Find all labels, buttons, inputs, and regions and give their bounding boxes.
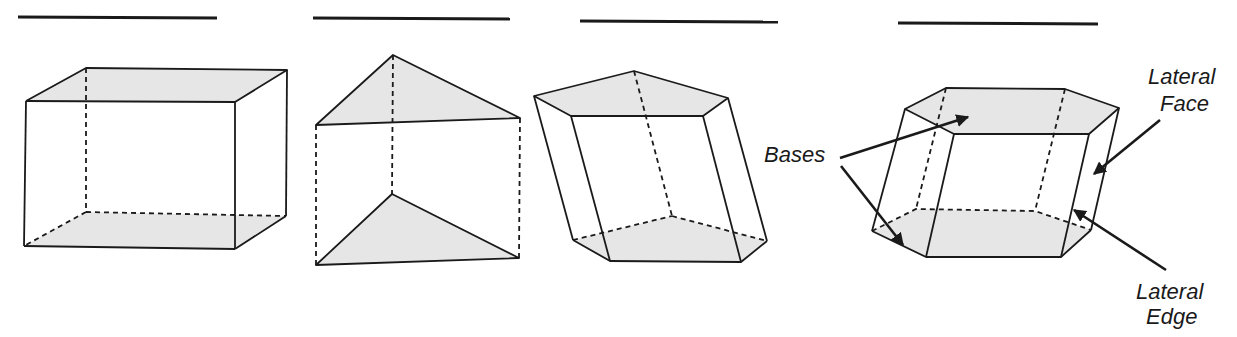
top-base bbox=[26, 68, 287, 102]
figure-pentagonal-prism bbox=[534, 21, 778, 262]
figure-rectangular-prism bbox=[18, 17, 287, 249]
arrow-bases-top bbox=[840, 117, 968, 158]
answer-blank-2[interactable] bbox=[313, 18, 510, 19]
bottom-base bbox=[24, 212, 286, 249]
answer-blank-3[interactable] bbox=[580, 21, 778, 22]
bottom-base bbox=[316, 194, 519, 265]
bottom-base bbox=[872, 209, 1091, 257]
arrow-bases-bottom bbox=[841, 166, 903, 245]
bottom-base bbox=[573, 216, 767, 262]
arrow-lateral-face bbox=[1094, 120, 1160, 174]
answer-blank-4[interactable] bbox=[898, 23, 1098, 24]
prisms-diagram: Bases Lateral Face Lateral Edge bbox=[0, 0, 1237, 337]
top-base bbox=[534, 71, 728, 116]
label-lateral-edge-1: Lateral bbox=[1136, 279, 1204, 304]
label-lateral-face-1: Lateral bbox=[1148, 64, 1216, 89]
answer-blank-1[interactable] bbox=[18, 17, 217, 18]
arrow-lateral-edge bbox=[1074, 210, 1166, 270]
top-base bbox=[316, 55, 520, 125]
label-lateral-face-2: Face bbox=[1160, 91, 1209, 116]
figure-triangular-prism bbox=[313, 18, 520, 265]
label-lateral-edge-2: Edge bbox=[1146, 304, 1197, 329]
label-bases: Bases bbox=[764, 142, 825, 167]
figure-hexagonal-prism: Bases Lateral Face Lateral Edge bbox=[764, 23, 1216, 329]
